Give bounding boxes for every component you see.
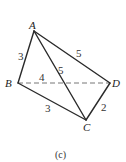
edge-label-ad: 5 (76, 47, 82, 59)
vertex-label-d: D (111, 77, 120, 89)
tetrahedron-diagram: A B D C 3 5 5 4 3 2 (c) (0, 0, 126, 162)
edge-ad (34, 31, 110, 83)
edge-label-cd: 2 (101, 101, 107, 113)
vertex-label-a: A (28, 19, 36, 31)
vertex-label-b: B (5, 77, 12, 89)
edge-label-bc: 3 (45, 102, 51, 114)
vertex-label-c: C (83, 121, 91, 133)
edge-label-ac: 5 (58, 64, 64, 76)
figure-caption: (c) (55, 149, 66, 161)
edge-label-bd: 4 (39, 71, 45, 83)
edge-label-ab: 3 (18, 50, 24, 62)
